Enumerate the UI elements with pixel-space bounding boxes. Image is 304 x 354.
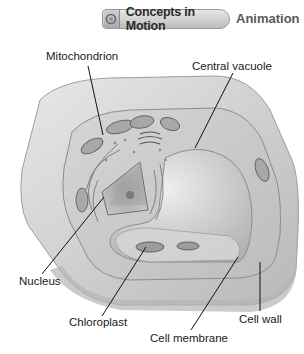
label-cell-wall: Cell wall [239, 313, 282, 325]
label-central-vacuole: Central vacuole [192, 60, 272, 72]
label-mitochondrion: Mitochondrion [46, 50, 118, 62]
plant-cell-figure: Concepts in Motion Animation [0, 0, 304, 354]
label-cell-membrane: Cell membrane [150, 332, 228, 344]
label-chloroplast: Chloroplast [69, 316, 127, 328]
label-nucleus: Nucleus [19, 275, 61, 287]
